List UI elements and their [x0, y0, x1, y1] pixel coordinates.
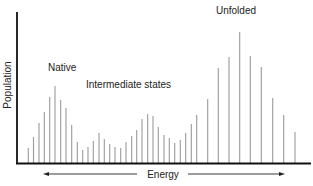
right-arrow-icon [188, 172, 285, 176]
x-axis-label: Energy [147, 169, 179, 180]
bars [28, 32, 295, 163]
annotation-native: Native [48, 62, 77, 73]
y-axis-label: Population [2, 61, 13, 108]
energy-population-chart: Population Native Intermediate states Un… [0, 0, 313, 186]
left-arrow-icon [43, 172, 137, 176]
annotation-unfolded: Unfolded [216, 5, 256, 16]
annotation-intermediate: Intermediate states [86, 79, 171, 90]
